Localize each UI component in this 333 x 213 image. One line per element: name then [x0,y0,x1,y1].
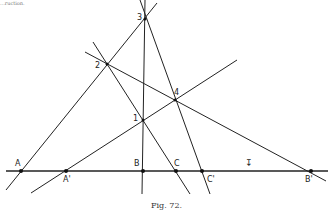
diagram-canvas [0,0,333,213]
label-3: 3 [137,14,142,22]
figure-caption: Fig. 72. [0,201,333,210]
label-C-prime: C' [207,176,215,184]
label-4: 4 [174,89,179,97]
arrow-mark-icon: ↧ [245,159,253,168]
label-2: 2 [95,62,100,70]
label-A-prime: A' [63,176,71,184]
label-B-prime: B' [305,176,313,184]
label-1: 1 [133,115,138,123]
line-2-4-Bprime [85,52,326,181]
label-B: B [134,160,140,168]
label-C: C [174,160,180,168]
line-B-1-3 [142,0,145,194]
label-A: A [15,160,20,168]
line-Aprime-1-4 [31,60,237,193]
